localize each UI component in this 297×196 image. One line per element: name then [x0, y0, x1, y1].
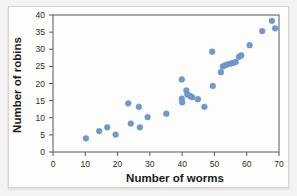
data-point — [189, 94, 195, 100]
data-point — [136, 104, 142, 110]
x-tick-label: 30 — [145, 159, 155, 169]
data-point — [145, 114, 151, 120]
x-axis-ticks — [53, 152, 279, 156]
y-axis-tick-labels: 0510152025303540 — [36, 10, 46, 157]
x-tick-label: 0 — [51, 159, 56, 169]
data-point — [125, 100, 131, 106]
y-axis-ticks — [49, 15, 53, 152]
x-axis-title: Number of worms — [126, 172, 224, 184]
data-point — [195, 96, 201, 102]
data-point — [104, 124, 110, 130]
y-axis-title: Number of robins — [11, 37, 23, 133]
data-points-layer — [83, 18, 278, 141]
y-tick-label: 15 — [36, 96, 46, 106]
y-tick-label: 30 — [36, 44, 46, 54]
x-tick-label: 40 — [177, 159, 187, 169]
y-tick-label: 20 — [36, 79, 46, 89]
data-point — [179, 76, 185, 82]
data-point — [163, 111, 169, 117]
data-point — [202, 104, 208, 110]
y-tick-label: 10 — [36, 113, 46, 123]
data-point — [233, 59, 239, 65]
data-point — [83, 135, 89, 141]
data-point — [218, 69, 224, 75]
y-tick-label: 35 — [36, 27, 46, 37]
data-point — [179, 99, 185, 105]
x-tick-label: 10 — [81, 159, 91, 169]
x-tick-label: 20 — [113, 159, 123, 169]
x-axis-tick-labels: 010203040506070 — [51, 159, 284, 169]
figure-container: 010203040506070 0510152025303540 Number … — [0, 0, 297, 196]
data-point — [113, 132, 119, 138]
y-tick-label: 0 — [40, 147, 45, 157]
data-point — [259, 28, 265, 34]
data-point — [137, 124, 143, 130]
data-point — [272, 25, 278, 31]
scatter-plot: 010203040506070 0510152025303540 Number … — [9, 7, 288, 187]
plot-frame — [53, 15, 279, 152]
data-point — [238, 53, 244, 59]
figure-panel: 010203040506070 0510152025303540 Number … — [8, 6, 289, 188]
data-point — [96, 128, 102, 134]
data-point — [269, 18, 275, 24]
x-tick-label: 70 — [274, 159, 284, 169]
y-tick-label: 25 — [36, 61, 46, 71]
y-tick-label: 5 — [40, 130, 45, 140]
data-point — [128, 121, 134, 127]
data-point — [210, 83, 216, 89]
x-tick-label: 60 — [242, 159, 252, 169]
y-tick-label: 40 — [36, 10, 46, 20]
data-point — [209, 49, 215, 55]
data-point — [247, 42, 253, 48]
x-tick-label: 50 — [210, 159, 220, 169]
